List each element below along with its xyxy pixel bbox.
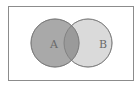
venn-diagram: A B xyxy=(0,0,139,85)
set-b-label: B xyxy=(99,38,107,51)
set-a-label: A xyxy=(49,38,59,51)
